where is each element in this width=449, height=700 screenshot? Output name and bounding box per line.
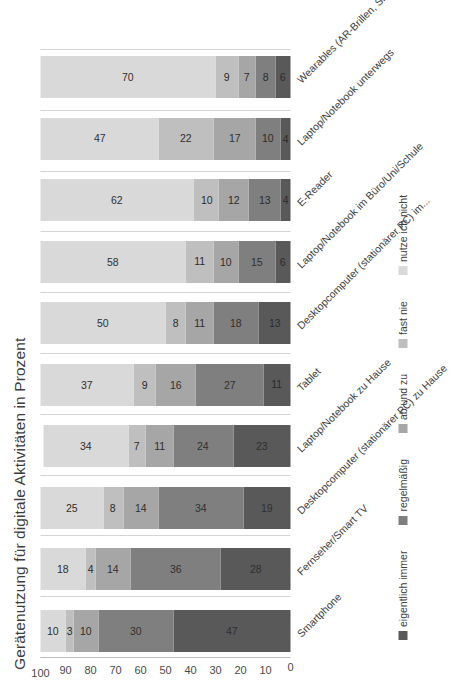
bar-segment-value-label: 22 xyxy=(179,133,191,144)
bar-segment[interactable]: 18 xyxy=(40,548,85,590)
legend-label: fast nie xyxy=(396,301,408,335)
bar-segment[interactable]: 12 xyxy=(218,179,248,221)
bar-segment-value-label: 4 xyxy=(87,564,93,575)
category-axis-label-text: E-Reader xyxy=(294,168,334,208)
bar-segment[interactable]: 70 xyxy=(40,56,215,98)
bar-segment[interactable]: 8 xyxy=(165,302,185,344)
bar-group[interactable]: 410172247 xyxy=(40,118,290,160)
bar-group[interactable]: 232411734 xyxy=(40,425,290,467)
legend-label: eigentlich immer xyxy=(396,551,408,627)
bar-segment-value-label: 10 xyxy=(47,626,59,637)
bar-segment[interactable]: 7 xyxy=(128,425,146,467)
bar-segment[interactable]: 9 xyxy=(215,56,238,98)
bar-segment[interactable]: 27 xyxy=(195,364,263,406)
legend-item[interactable]: eigentlich immer xyxy=(396,551,408,640)
bar-segment-value-label: 9 xyxy=(141,380,147,391)
bar-segment[interactable]: 13 xyxy=(248,179,280,221)
bar-segment[interactable]: 9 xyxy=(133,364,156,406)
bar-segment[interactable]: 10 xyxy=(193,179,218,221)
bar-segment[interactable]: 19 xyxy=(243,487,291,529)
bar-segment[interactable]: 50 xyxy=(40,302,165,344)
bar-segment[interactable]: 3 xyxy=(65,610,73,652)
bar-segment[interactable]: 11 xyxy=(263,364,291,406)
bar-group[interactable]: 283614418 xyxy=(40,548,290,590)
bar-segment[interactable]: 11 xyxy=(145,425,173,467)
legend-item[interactable]: fast nie xyxy=(396,301,408,348)
bar-segment-value-label: 37 xyxy=(80,380,92,391)
bar-segment-value-label: 9 xyxy=(223,72,229,83)
bar-segment[interactable]: 24 xyxy=(173,425,233,467)
bar-segment[interactable]: 4 xyxy=(85,548,95,590)
bar-segment[interactable]: 10 xyxy=(73,610,98,652)
bar-segment-value-label: 10 xyxy=(262,133,274,144)
bar-segment[interactable]: 34 xyxy=(43,425,128,467)
bar-segment-value-label: 6 xyxy=(280,72,286,83)
legend-item[interactable]: regelmäßig xyxy=(396,459,408,525)
bar-segment[interactable]: 47 xyxy=(40,118,158,160)
legend-item[interactable]: nutze ich nicht xyxy=(396,195,408,275)
bar-segment[interactable]: 16 xyxy=(155,364,195,406)
bar-segment[interactable]: 11 xyxy=(185,302,213,344)
bar-group[interactable]: 615101158 xyxy=(40,241,290,283)
bar-segment-value-label: 27 xyxy=(223,380,235,391)
bar-segment[interactable]: 14 xyxy=(123,487,158,529)
value-axis-tick-label: 20 xyxy=(234,664,246,676)
bar-segment[interactable]: 10 xyxy=(213,241,238,283)
value-axis-tick-label: 30 xyxy=(209,664,221,676)
bar-group[interactable]: 413121062 xyxy=(40,179,290,221)
legend-swatch-icon xyxy=(398,516,407,525)
bar-segment-value-label: 58 xyxy=(107,256,119,267)
bar-segment-value-label: 7 xyxy=(243,72,249,83)
bar-segment-value-label: 7 xyxy=(133,441,139,452)
bar-segment[interactable]: 22 xyxy=(158,118,213,160)
bar-segment[interactable]: 47 xyxy=(173,610,291,652)
bar-segment[interactable]: 17 xyxy=(213,118,256,160)
bar-group[interactable]: 687970 xyxy=(40,56,290,98)
bar-segment[interactable]: 28 xyxy=(220,548,290,590)
legend-label: nutze ich nicht xyxy=(396,195,408,262)
legend-item[interactable]: ab und zu xyxy=(396,374,408,433)
bar-segment[interactable]: 37 xyxy=(40,364,133,406)
bar-segment-value-label: 28 xyxy=(249,564,261,575)
bar-segment[interactable]: 4 xyxy=(280,118,290,160)
value-axis-tick-label: 0 xyxy=(284,664,296,670)
chart-legend: eigentlich immerregelmäßigab und zufast … xyxy=(396,50,408,640)
bar-segment[interactable]: 14 xyxy=(95,548,130,590)
category-axis-label: Laptop/Notebook im Büro/Uni/Schule xyxy=(292,241,382,283)
category-axis-label-text: Tablet xyxy=(294,365,322,393)
bar-segment[interactable]: 58 xyxy=(40,241,185,283)
bar-segment-value-label: 11 xyxy=(153,441,164,452)
bar-segment[interactable]: 10 xyxy=(40,610,65,652)
bar-segment-value-label: 62 xyxy=(111,195,123,206)
bar-segment[interactable]: 8 xyxy=(255,56,275,98)
bar-group[interactable]: 131811850 xyxy=(40,302,290,344)
bar-segment-value-label: 10 xyxy=(219,256,231,267)
bar-segment[interactable]: 23 xyxy=(233,425,291,467)
bar-segment[interactable]: 62 xyxy=(40,179,193,221)
bar-group[interactable]: 193414825 xyxy=(40,487,290,529)
bar-segment[interactable]: 6 xyxy=(275,56,290,98)
bar-segment[interactable]: 36 xyxy=(130,548,220,590)
bar-group[interactable]: 473010310 xyxy=(40,610,290,652)
bar-segment[interactable]: 4 xyxy=(280,179,290,221)
bar-segment[interactable]: 11 xyxy=(185,241,213,283)
bar-segment[interactable]: 30 xyxy=(98,610,173,652)
bar-segment[interactable]: 6 xyxy=(275,241,290,283)
bar-segment-value-label: 11 xyxy=(271,380,282,391)
bar-segment-value-label: 12 xyxy=(227,195,239,206)
bar-segment[interactable]: 34 xyxy=(158,487,243,529)
bar-segment-value-label: 25 xyxy=(65,503,77,514)
bar-segment[interactable]: 15 xyxy=(238,241,276,283)
category-axis-label-text: Smartphone xyxy=(294,591,343,640)
bar-segment[interactable]: 8 xyxy=(103,487,123,529)
bar-segment[interactable]: 18 xyxy=(213,302,258,344)
bar-segment[interactable]: 7 xyxy=(238,56,256,98)
bar-group[interactable]: 112716937 xyxy=(40,364,290,406)
bar-segment[interactable]: 10 xyxy=(255,118,280,160)
bar-segment-value-label: 50 xyxy=(97,318,109,329)
bar-segment-value-label: 3 xyxy=(66,626,72,637)
category-axis-label: Tablet xyxy=(292,364,382,406)
bar-segment[interactable]: 25 xyxy=(40,487,103,529)
bar-segment[interactable]: 13 xyxy=(258,302,291,344)
